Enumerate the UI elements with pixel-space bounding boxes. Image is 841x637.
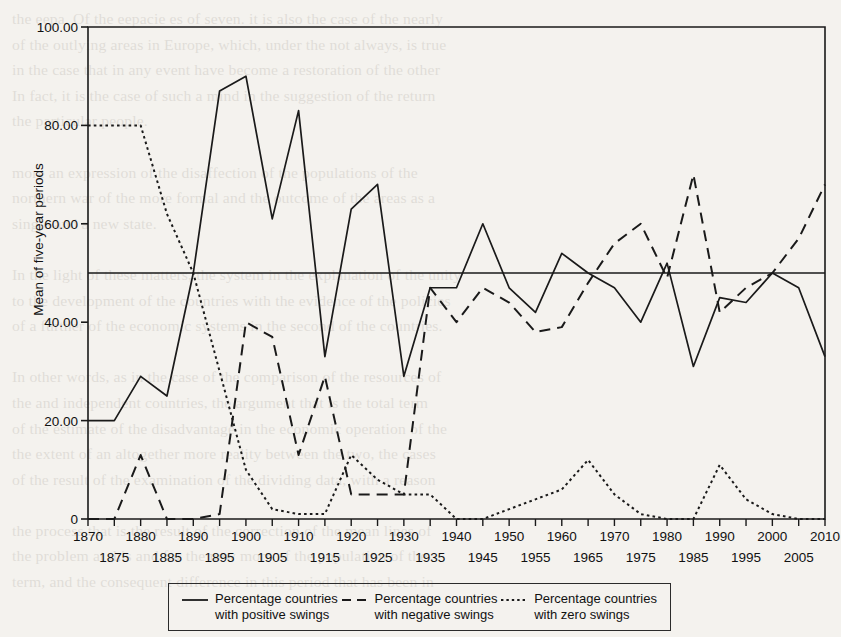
legend-label-line2: with positive swings (215, 607, 338, 624)
series-line-2 (88, 175, 825, 519)
series-line-1 (88, 76, 825, 420)
legend-line-swatch (501, 593, 527, 607)
legend-label-line2: with negative swings (375, 607, 498, 624)
legend-item-2: Percentage countrieswith negative swings (342, 591, 498, 624)
legend-label-line1: Percentage countries (534, 591, 657, 608)
chart-legend: Percentage countrieswith positive swings… (168, 583, 671, 631)
legend-item-3: Percentage countrieswith zero swings (501, 591, 657, 624)
legend-line-swatch (342, 593, 368, 607)
legend-item-1: Percentage countrieswith positive swings (182, 591, 338, 624)
legend-label-line1: Percentage countries (215, 591, 338, 608)
legend-line-swatch (182, 593, 208, 607)
legend-label-line2: with zero swings (534, 607, 657, 624)
legend-label-line1: Percentage countries (375, 591, 498, 608)
